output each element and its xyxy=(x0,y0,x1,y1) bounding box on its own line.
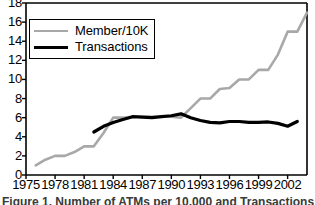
legend-label-member: Member/10K xyxy=(75,24,148,38)
chart-legend: Member/10K Transactions xyxy=(29,19,155,59)
legend-item-member: Member/10K xyxy=(34,23,148,39)
figure-caption-text: Figure 1. Number of ATMs per 10,000 and … xyxy=(2,196,315,205)
chart-figure: 181614121086420 197519781981198419871990… xyxy=(0,0,315,205)
figure-caption: Figure 1. Number of ATMs per 10,000 and … xyxy=(2,196,315,205)
x-axis-tick-labels: 1975197819811984198719901993199619992002 xyxy=(0,178,315,196)
legend-line-swatch-member xyxy=(34,30,68,32)
x-tick-label: 2002 xyxy=(271,178,305,192)
legend-item-transactions: Transactions xyxy=(34,39,148,55)
legend-label-transactions: Transactions xyxy=(75,40,148,54)
legend-line-swatch-transactions xyxy=(34,46,68,49)
